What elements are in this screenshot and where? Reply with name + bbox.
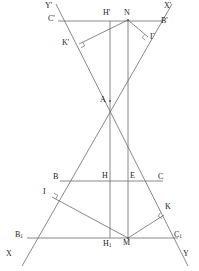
right-angle-marker-Gamma xyxy=(142,34,145,40)
point-label-text-Bprime: B' xyxy=(161,16,168,25)
right-angle-markers-group xyxy=(54,34,162,218)
point-label-B: B xyxy=(53,173,58,181)
point-label-text-M: M xyxy=(123,238,130,247)
point-label-text-H: H xyxy=(102,171,108,180)
point-label-subscript-H1: 1 xyxy=(109,242,112,248)
point-label-Yprime: Y' xyxy=(45,2,52,10)
line-X-to-Xprime xyxy=(22,4,172,266)
point-label-Hprime: H' xyxy=(103,9,110,17)
point-label-N: N xyxy=(124,9,130,17)
point-label-C: C xyxy=(158,173,163,181)
point-label-text-X: X xyxy=(6,249,12,258)
point-label-text-K: K xyxy=(165,202,171,211)
point-label-B1: B1 xyxy=(15,231,23,240)
point-label-text-Cprime: C' xyxy=(48,14,55,23)
point-label-text-Gamma: Γ xyxy=(150,32,155,41)
point-label-H: H xyxy=(102,172,108,180)
vertex-dot-N xyxy=(127,19,129,21)
segments-group xyxy=(22,4,188,266)
point-label-I: I xyxy=(43,188,46,196)
point-label-text-C: C xyxy=(158,172,163,181)
point-label-text-N: N xyxy=(124,8,130,17)
point-label-text-A: A xyxy=(100,95,106,104)
point-label-text-E: E xyxy=(130,171,135,180)
point-label-K: K xyxy=(165,203,171,211)
point-label-text-I: I xyxy=(43,187,46,196)
point-label-C1: C1 xyxy=(174,231,182,240)
point-label-A: A xyxy=(100,96,106,104)
geometry-figure: Y'X'C'B'H'NK'ΓABHECIKB1C1H1MXY xyxy=(0,0,199,271)
point-label-Y: Y xyxy=(183,250,189,258)
point-label-Bprime: B' xyxy=(161,17,168,25)
point-label-E: E xyxy=(130,172,135,180)
point-label-text-B: B xyxy=(53,172,58,181)
point-label-subscript-C1: 1 xyxy=(179,233,182,239)
vertex-dot-A xyxy=(109,100,111,102)
point-label-text-Y: Y xyxy=(183,249,189,258)
point-label-Cprime: C' xyxy=(48,15,55,23)
point-label-text-Hprime: H' xyxy=(103,8,110,17)
segment-M-I xyxy=(52,197,128,238)
segment-N-Gamma xyxy=(128,20,148,37)
line-Y-to-Yprime xyxy=(56,4,188,266)
point-label-Kprime: K' xyxy=(62,39,69,47)
point-label-M: M xyxy=(123,239,130,247)
point-label-Gamma: Γ xyxy=(150,33,155,41)
point-label-Xprime: X' xyxy=(164,2,171,10)
segment-M-K xyxy=(128,215,164,238)
segment-N-Kprime xyxy=(79,20,128,44)
point-label-X: X xyxy=(6,250,12,258)
point-label-subscript-B1: 1 xyxy=(20,233,23,239)
point-label-text-Kprime: K' xyxy=(62,38,69,47)
point-label-text-Xprime: X' xyxy=(164,1,171,10)
geometry-canvas xyxy=(0,0,199,271)
point-label-H1: H1 xyxy=(103,240,112,249)
point-label-text-Yprime: Y' xyxy=(45,1,52,10)
